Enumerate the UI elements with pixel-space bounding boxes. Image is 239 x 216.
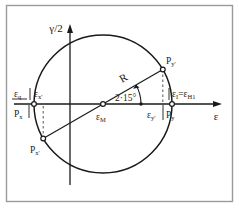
horizontal-axis-label: ε xyxy=(214,110,219,122)
mohr-circle-svg: γ/2 ε εq εx' Px εM εy' Py εI=ε xyxy=(0,0,239,216)
vertical-axis-label: γ/2 xyxy=(48,22,62,34)
point-marker-Py-prime xyxy=(160,67,165,72)
point-marker-center xyxy=(101,102,106,107)
point-marker-Py xyxy=(170,102,175,107)
angle-arc-endpoint-dot xyxy=(139,102,143,106)
point-marker-Px-prime xyxy=(41,136,46,141)
label-angle: 2·15° xyxy=(115,93,136,103)
mohr-circle-figure: γ/2 ε εq εx' Px εM εy' Py εI=ε xyxy=(0,0,239,216)
point-marker-Pz xyxy=(32,102,37,107)
